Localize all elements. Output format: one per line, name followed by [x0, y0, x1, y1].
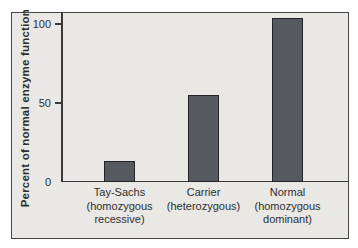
bar-normal: [272, 18, 303, 182]
bar-tay-sachs: [104, 161, 135, 182]
page: Percent of normal enzyme function 050100…: [0, 0, 358, 248]
y-tick-label-0: 0: [15, 175, 51, 190]
plot-area: 050100Tay-Sachs (homozygous recessive)Ca…: [61, 13, 348, 182]
enzyme-function-bar-chart: Percent of normal enzyme function 050100…: [11, 12, 349, 239]
y-tick-mark-100: [55, 23, 61, 25]
x-category-label-normal: Normal (homozygous dominant): [228, 186, 348, 227]
y-tick-label-50: 50: [15, 96, 51, 111]
y-tick-label-100: 100: [15, 17, 51, 32]
y-tick-mark-50: [55, 102, 61, 104]
y-axis-line: [61, 13, 63, 182]
bar-carrier: [188, 95, 219, 182]
